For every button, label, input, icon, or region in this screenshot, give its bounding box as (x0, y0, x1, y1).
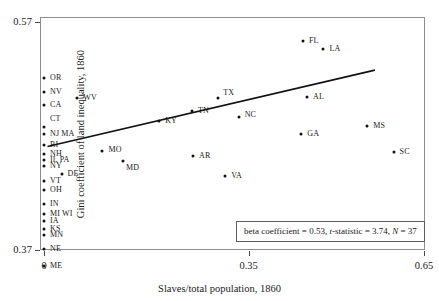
data-point (76, 97, 79, 100)
data-point-label: SC (400, 148, 410, 156)
data-point-label: NE (50, 245, 61, 253)
data-point (43, 76, 46, 79)
data-point (43, 212, 46, 215)
x-tick-label: 0.65 (415, 261, 433, 272)
data-point-label: VA (231, 172, 242, 180)
data-point-label: VT (50, 177, 61, 185)
data-point (392, 150, 395, 153)
data-point (306, 96, 309, 99)
x-axis-label: Slaves/total population, 1860 (0, 283, 439, 294)
data-point (43, 126, 46, 129)
data-point-label: CA (50, 101, 61, 109)
data-point (43, 103, 46, 106)
data-point-label: WV (83, 94, 97, 102)
data-point-label: MD (126, 164, 139, 172)
data-point (43, 219, 46, 222)
data-point (43, 90, 46, 93)
data-point (43, 188, 46, 191)
data-point-label: ME (50, 262, 62, 270)
data-point (43, 158, 46, 161)
data-point (224, 175, 227, 178)
stats-annotation-box: beta coefficient = 0.53, t-statistic = 3… (236, 221, 425, 242)
x-tick-mark (44, 251, 45, 256)
data-point-label: KY (165, 117, 177, 125)
scatter-chart: Gini coefficient of land inequality, 186… (0, 0, 439, 301)
data-point (43, 248, 46, 251)
data-point (43, 202, 46, 205)
data-point (43, 132, 46, 135)
data-point-label: MS (373, 122, 385, 130)
data-point (217, 97, 220, 100)
y-tick-label: 0.37 (2, 245, 32, 256)
y-tick-mark (35, 22, 40, 23)
data-point-label: FL (309, 37, 319, 45)
data-point-label: TN (198, 107, 209, 115)
data-point-label: NV (50, 88, 62, 96)
data-point (190, 109, 193, 112)
data-point-label: NJ MA (50, 130, 75, 138)
data-point-label: MO (108, 146, 121, 154)
data-point (366, 124, 369, 127)
data-point (237, 116, 240, 119)
x-tick-mark (424, 251, 425, 256)
beta-coefficient-text: beta coefficient = 0.53, (244, 226, 329, 236)
data-point-label: TX (223, 89, 234, 97)
t-statistic-text: -statistic = 3.74, (332, 226, 392, 236)
data-point (43, 152, 46, 155)
y-tick-label: 0.57 (2, 17, 32, 28)
data-point (301, 40, 304, 43)
data-point-label: IN (50, 200, 59, 208)
x-tick-mark (249, 251, 250, 256)
data-point (43, 180, 46, 183)
data-point (43, 227, 46, 230)
data-point-label: GA (307, 130, 319, 138)
plot-area (40, 17, 425, 250)
data-point (43, 144, 46, 147)
data-point (60, 172, 63, 175)
y-tick-mark (35, 250, 40, 251)
y-axis-label-wrap: Gini coefficient of land inequality, 186… (4, 17, 20, 250)
y-axis-label: Gini coefficient of land inequality, 186… (75, 49, 86, 217)
data-point (43, 234, 46, 237)
data-point-label: OH (50, 186, 62, 194)
data-point (43, 164, 46, 167)
data-point-label: NY (50, 162, 62, 170)
data-point-label: DE (68, 170, 79, 178)
data-point (158, 120, 161, 123)
data-point (43, 264, 46, 267)
data-point-label: NC (245, 111, 256, 119)
data-point (322, 47, 325, 50)
n-value-text: = 37 (398, 226, 417, 236)
data-point-label: AL (313, 93, 324, 101)
data-point (101, 150, 104, 153)
data-point-label: LA (329, 45, 340, 53)
data-point-label: AR (199, 152, 210, 160)
data-point (192, 154, 195, 157)
data-point-label: MN (50, 231, 63, 239)
data-point-label: CT (50, 115, 61, 123)
data-point (121, 160, 124, 163)
data-point-label: RI (50, 141, 58, 149)
data-point (300, 132, 303, 135)
data-point-label: OR (50, 74, 61, 82)
x-tick-label: 0.35 (239, 261, 257, 272)
